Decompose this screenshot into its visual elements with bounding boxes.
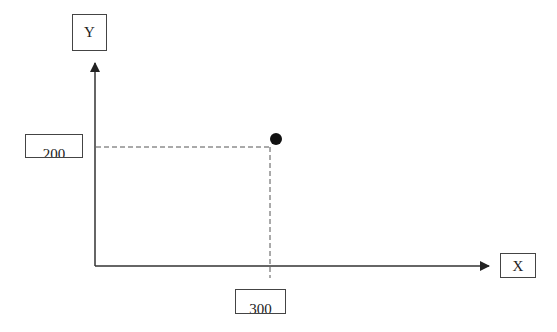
y-axis-label-box: Y xyxy=(72,14,107,51)
y-value-label-box: 200 xyxy=(25,134,83,158)
y-axis-label: Y xyxy=(84,24,95,41)
x-axis-label-box: X xyxy=(500,253,536,278)
data-point xyxy=(270,133,282,145)
x-axis-label: X xyxy=(513,258,524,275)
x-value-label: 300 xyxy=(249,301,272,314)
x-value-label-box: 300 xyxy=(235,289,286,314)
y-value-label: 200 xyxy=(43,146,66,158)
